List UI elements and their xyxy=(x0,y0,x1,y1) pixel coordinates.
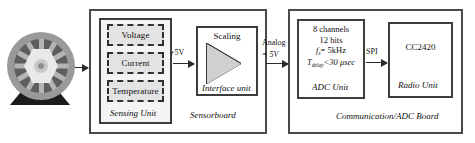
adc-unit-caption: ADC Unit xyxy=(312,82,348,92)
adc-spec-fs-subscript: s xyxy=(318,50,320,56)
scaling-label: Scaling xyxy=(196,31,258,41)
arrow-sensing-to-interface-label: +5V xyxy=(170,48,184,57)
arrow-analog-label-bottom: = 5V xyxy=(262,50,278,59)
adc-spec-tdelay-symbol: T xyxy=(307,57,312,67)
radio-chip-label: CC2420 xyxy=(388,42,453,52)
adc-spec-sampling-rate: fs= 5kHz xyxy=(297,45,365,57)
sensor-temperature: Temperature xyxy=(107,80,164,102)
sensor-current-label: Current xyxy=(121,58,149,68)
sensorboard-caption: Sensorboard xyxy=(190,110,236,120)
adc-spec-delay: Tdelay<30 μsec xyxy=(297,57,365,69)
radio-unit-caption: Radio Unit xyxy=(398,80,438,90)
communication-adc-board-caption: Communication/ADC Board xyxy=(336,111,438,121)
sensor-current: Current xyxy=(107,52,164,74)
adc-spec-fs-value: = 5kHz xyxy=(321,45,346,55)
arrow-sensorboard-to-adc xyxy=(266,63,288,64)
adc-spec-tdelay-subscript: delay xyxy=(312,62,324,68)
sensor-voltage-label: Voltage xyxy=(121,30,149,40)
diagram-canvas: Sensorboard Voltage Current Temperature … xyxy=(0,0,475,143)
adc-spec-tdelay-value: <30 μsec xyxy=(324,57,355,67)
arrow-adc-to-radio xyxy=(366,62,387,63)
arrow-sensing-to-interface xyxy=(173,63,194,64)
wheel-icon xyxy=(7,32,75,107)
sensing-unit-caption: Sensing Unit xyxy=(110,108,156,118)
adc-spec-channels: 8 channels xyxy=(297,24,365,35)
sensor-temperature-label: Temperature xyxy=(112,86,158,96)
wheel-axle-icon xyxy=(38,63,44,69)
triangle-amplifier-icon xyxy=(207,44,241,84)
arrow-adc-to-radio-label: SPI xyxy=(366,47,378,56)
adc-unit-specs: 8 channels 12 bits fs= 5kHz Tdelay<30 μs… xyxy=(297,24,365,68)
arrow-analog-label-top: Analog xyxy=(262,38,286,47)
adc-spec-bits: 12 bits xyxy=(297,35,365,46)
sensor-voltage: Voltage xyxy=(107,24,164,46)
arrow-wheel-to-sensorboard xyxy=(75,67,88,68)
interface-unit-caption: Interface unit xyxy=(202,83,251,93)
